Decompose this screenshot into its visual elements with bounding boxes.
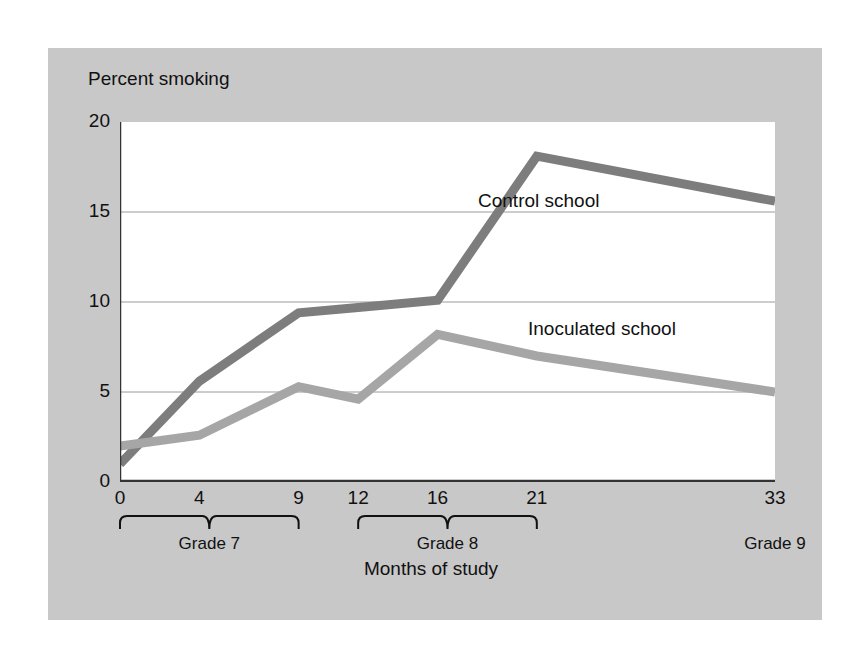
series-label-control: Control school	[478, 190, 599, 212]
series-lines-group	[120, 156, 775, 464]
chart-lines-svg	[120, 122, 775, 482]
series-label-inoculated: Inoculated school	[528, 318, 676, 340]
x-tick-label: 16	[418, 487, 458, 509]
x-tick-label: 12	[338, 487, 378, 509]
grade-label: Grade 7	[109, 534, 309, 554]
x-axis-title: Months of study	[0, 558, 862, 580]
x-tick-label: 4	[179, 487, 219, 509]
x-tick-label: 21	[517, 487, 557, 509]
plot-area	[120, 122, 775, 482]
x-tick-label: 9	[279, 487, 319, 509]
grade-label: Grade 9	[675, 534, 862, 554]
y-tick-label: 10	[76, 290, 110, 312]
figure-container: Percent smoking 05101520 04912162133 Gra…	[0, 0, 862, 652]
y-tick-label: 20	[76, 110, 110, 132]
y-tick-label: 15	[76, 200, 110, 222]
x-tick-label: 0	[100, 487, 140, 509]
x-tick-label: 33	[755, 487, 795, 509]
y-axis-title: Percent smoking	[88, 68, 230, 90]
grade-label: Grade 8	[348, 534, 548, 554]
series-line-inoculated	[120, 334, 775, 446]
series-line-control	[120, 156, 775, 464]
y-tick-label: 5	[76, 380, 110, 402]
